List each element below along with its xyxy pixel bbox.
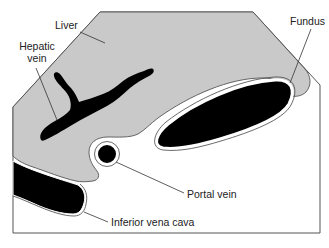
label-hepatic-vein: Hepatic vein	[14, 40, 60, 64]
label-hepatic-vein-line2: vein	[14, 52, 60, 64]
liver-anatomy-diagram: Liver Hepatic vein Fundus Portal vein In…	[0, 0, 329, 248]
diagram-canvas	[0, 0, 329, 248]
label-hepatic-vein-line1: Hepatic	[14, 40, 60, 52]
portal-vein-shape	[97, 144, 118, 165]
label-portal-vein: Portal vein	[187, 188, 237, 200]
label-fundus: Fundus	[290, 15, 325, 27]
label-inferior-vena-cava: Inferior vena cava	[111, 216, 194, 228]
label-liver: Liver	[55, 19, 78, 31]
